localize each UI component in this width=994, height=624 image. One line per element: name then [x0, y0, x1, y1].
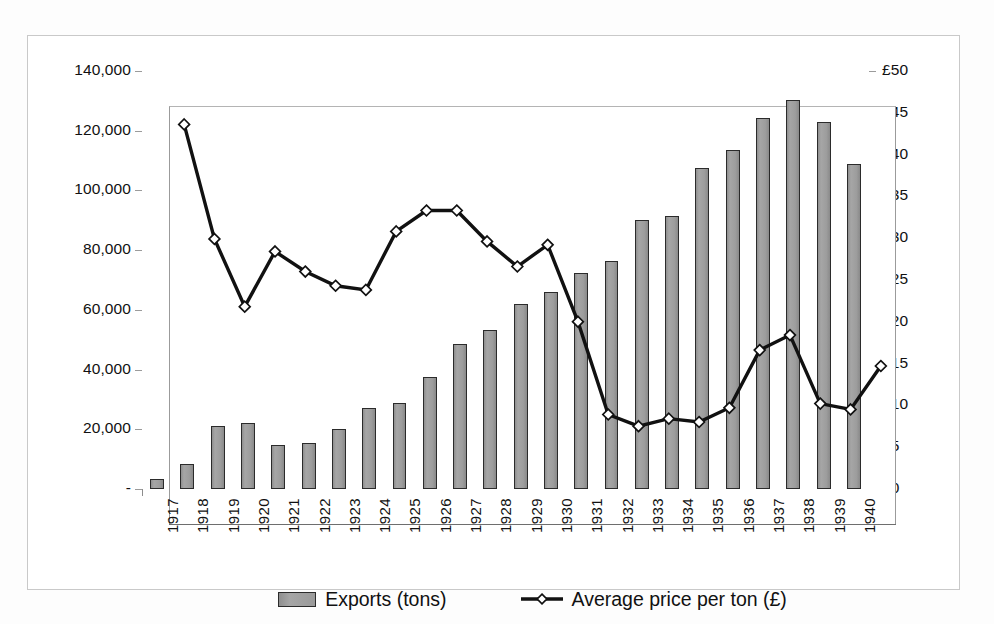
category-label-1938: 1938: [800, 498, 817, 533]
left-axis-tick-label: 20,000: [28, 419, 131, 437]
category-label-1925: 1925: [406, 498, 423, 533]
category-label-1932: 1932: [619, 498, 636, 533]
category-label-1935: 1935: [709, 498, 726, 533]
category-label-1919: 1919: [225, 498, 242, 533]
price-marker-1937[interactable]: [785, 330, 796, 341]
price-marker-1938[interactable]: [815, 398, 826, 409]
category-label-1917: 1917: [164, 498, 181, 533]
left-axis-tick-label: 80,000: [28, 240, 131, 258]
left-axis-tick: [135, 429, 142, 430]
category-label-1928: 1928: [497, 498, 514, 533]
price-marker-1934[interactable]: [694, 417, 705, 428]
left-axis-tick: [135, 489, 142, 490]
category-label-1923: 1923: [346, 498, 363, 533]
left-axis-tick-label: 100,000: [28, 180, 131, 198]
category-label-1939: 1939: [831, 498, 848, 533]
legend-label-average-price: Average price per ton (£): [572, 588, 787, 611]
category-label-1931: 1931: [588, 498, 605, 533]
left-axis-tick-label: 120,000: [28, 121, 131, 139]
category-label-1922: 1922: [316, 498, 333, 533]
category-label-1940: 1940: [861, 498, 878, 533]
price-marker-1932[interactable]: [633, 421, 644, 432]
legend-label-exports: Exports (tons): [325, 588, 446, 611]
category-label-1930: 1930: [558, 498, 575, 533]
price-marker-1931[interactable]: [603, 409, 614, 420]
left-axis-tick: [135, 250, 142, 251]
category-label-1918: 1918: [194, 498, 211, 533]
category-label-1926: 1926: [437, 498, 454, 533]
legend-entry-exports[interactable]: Exports (tons): [278, 588, 446, 611]
bar-1917[interactable]: [150, 479, 164, 489]
price-marker-1918[interactable]: [209, 234, 220, 245]
left-axis-tick: [135, 370, 142, 371]
line-series-average-price: [169, 106, 896, 524]
right-axis-tick: [869, 71, 876, 72]
category-label-1924: 1924: [376, 498, 393, 533]
chart-frame: -20,00040,00060,00080,000100,000120,0001…: [27, 35, 960, 590]
price-marker-1917[interactable]: [179, 119, 190, 130]
category-label-1934: 1934: [679, 498, 696, 533]
left-axis-tick-label: 140,000: [28, 61, 131, 79]
left-axis-tick-label: 60,000: [28, 300, 131, 318]
chart-canvas: -20,00040,00060,00080,000100,000120,0001…: [0, 0, 994, 624]
price-markers: [179, 119, 887, 432]
category-label-1927: 1927: [467, 498, 484, 533]
price-marker-1922[interactable]: [330, 280, 341, 291]
right-axis-tick-label: £50: [882, 61, 908, 79]
category-label-1920: 1920: [255, 498, 272, 533]
category-axis-tick: [142, 489, 143, 496]
category-label-1937: 1937: [770, 498, 787, 533]
category-label-1933: 1933: [649, 498, 666, 533]
category-label-1929: 1929: [528, 498, 545, 533]
left-axis-tick: [135, 131, 142, 132]
left-axis-tick-label: 40,000: [28, 360, 131, 378]
price-marker-1930[interactable]: [573, 316, 584, 327]
price-polyline: [184, 124, 881, 426]
chart-legend: Exports (tons) Average price per ton (£): [169, 584, 896, 614]
left-axis-tick: [135, 310, 142, 311]
category-label-1936: 1936: [740, 498, 757, 533]
price-marker-1933[interactable]: [663, 413, 674, 424]
left-axis-tick-label: -: [28, 479, 131, 497]
left-axis-tick: [135, 71, 142, 72]
left-axis-tick: [135, 190, 142, 191]
legend-entry-average-price[interactable]: Average price per ton (£): [521, 588, 787, 611]
category-label-1921: 1921: [285, 498, 302, 533]
line-marker-swatch-icon: [521, 592, 563, 606]
bar-swatch-icon: [278, 592, 316, 607]
